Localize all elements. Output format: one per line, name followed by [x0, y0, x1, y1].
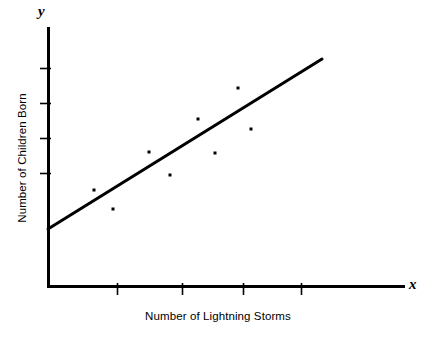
data-point: [250, 128, 253, 131]
data-point: [169, 174, 172, 177]
data-point: [214, 152, 217, 155]
plot-canvas: [0, 0, 427, 340]
plot-background: [0, 0, 427, 340]
data-point: [237, 87, 240, 90]
x-axis-variable-label: x: [409, 277, 417, 292]
y-axis-title: Number of Children Born: [16, 73, 28, 243]
data-point: [93, 189, 96, 192]
data-point: [148, 151, 151, 154]
y-axis-variable-label: y: [38, 4, 45, 19]
data-point: [197, 118, 200, 121]
data-point: [112, 208, 115, 211]
scatter-plot-figure: y x Number of Lightning Storms Number of…: [0, 0, 427, 340]
x-axis-title: Number of Lightning Storms: [48, 310, 388, 322]
